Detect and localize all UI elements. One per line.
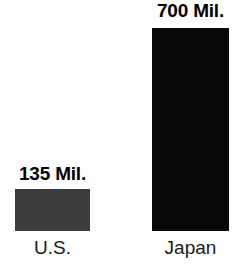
value-label-japan: 700 Mil.: [146, 0, 232, 21]
bar-japan: [152, 28, 229, 231]
bar-chart: 135 Mil. U.S. 700 Mil. Japan: [0, 0, 232, 271]
bar-us: [15, 189, 90, 231]
value-label-us: 135 Mil.: [8, 163, 97, 184]
category-label-japan: Japan: [146, 236, 232, 259]
category-label-us: U.S.: [8, 236, 97, 259]
